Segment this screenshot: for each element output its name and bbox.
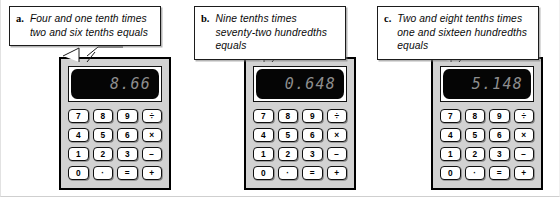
panel-c: c. Two and eight tenths times one and si…: [373, 0, 559, 197]
calculator-a[interactable]: 8.66 7 8 9 ÷ 4 5 6 × 1 2 3 − 0 · = +: [59, 57, 171, 190]
caption-text-a: Four and one tenth times two and six ten…: [30, 12, 153, 39]
display-value-b: 0.648: [285, 77, 336, 92]
keypad-b: 7 8 9 ÷ 4 5 6 × 1 2 3 − 0 · = +: [253, 109, 347, 180]
panel-b: b. Nine tenths times seventy-two hundred…: [188, 0, 374, 197]
caption-text-b: Nine tenths times seventy-two hundredths…: [215, 12, 338, 53]
callout-b: b. Nine tenths times seventy-two hundred…: [194, 6, 346, 60]
key-plus[interactable]: +: [514, 166, 535, 180]
key-7[interactable]: 7: [68, 109, 89, 123]
key-minus[interactable]: −: [514, 147, 535, 161]
key-decimal-point[interactable]: ·: [465, 166, 486, 180]
key-3[interactable]: 3: [302, 147, 323, 161]
key-0[interactable]: 0: [68, 166, 89, 180]
keypad-a: 7 8 9 ÷ 4 5 6 × 1 2 3 − 0 · = +: [68, 109, 162, 180]
key-5[interactable]: 5: [465, 128, 486, 142]
callout-c: c. Two and eight tenths times one and si…: [377, 6, 539, 60]
key-plus[interactable]: +: [142, 166, 163, 180]
key-8[interactable]: 8: [278, 109, 299, 123]
key-multiply[interactable]: ×: [142, 128, 163, 142]
key-3[interactable]: 3: [117, 147, 138, 161]
key-multiply[interactable]: ×: [327, 128, 348, 142]
key-0[interactable]: 0: [253, 166, 274, 180]
key-4[interactable]: 4: [253, 128, 274, 142]
key-equals[interactable]: =: [489, 166, 510, 180]
key-decimal-point[interactable]: ·: [93, 166, 114, 180]
key-5[interactable]: 5: [278, 128, 299, 142]
key-divide[interactable]: ÷: [142, 109, 163, 123]
display-value-c: 5.148: [472, 77, 523, 92]
key-divide[interactable]: ÷: [514, 109, 535, 123]
key-divide[interactable]: ÷: [327, 109, 348, 123]
key-decimal-point[interactable]: ·: [278, 166, 299, 180]
key-7[interactable]: 7: [253, 109, 274, 123]
key-3[interactable]: 3: [489, 147, 510, 161]
key-7[interactable]: 7: [440, 109, 461, 123]
display-bezel-a: 8.66: [68, 66, 162, 102]
key-2[interactable]: 2: [278, 147, 299, 161]
key-2[interactable]: 2: [93, 147, 114, 161]
panel-a: a. Four and one tenth times two and six …: [3, 0, 189, 197]
key-4[interactable]: 4: [440, 128, 461, 142]
key-9[interactable]: 9: [489, 109, 510, 123]
caption-text-c: Two and eight tenths times one and sixte…: [397, 12, 531, 53]
keypad-c: 7 8 9 ÷ 4 5 6 × 1 2 3 − 0 · = +: [440, 109, 534, 180]
key-4[interactable]: 4: [68, 128, 89, 142]
calculator-c[interactable]: 5.148 7 8 9 ÷ 4 5 6 × 1 2 3 − 0 · = +: [431, 57, 543, 190]
key-minus[interactable]: −: [142, 147, 163, 161]
key-9[interactable]: 9: [302, 109, 323, 123]
caption-letter-b: b.: [201, 12, 209, 26]
caption-letter-c: c.: [384, 12, 391, 26]
calculator-display-c: 5.148: [443, 69, 531, 99]
display-bezel-c: 5.148: [440, 66, 534, 102]
calculator-display-b: 0.648: [256, 69, 344, 99]
key-6[interactable]: 6: [489, 128, 510, 142]
key-plus[interactable]: +: [327, 166, 348, 180]
key-6[interactable]: 6: [117, 128, 138, 142]
key-equals[interactable]: =: [302, 166, 323, 180]
key-8[interactable]: 8: [465, 109, 486, 123]
callout-a: a. Four and one tenth times two and six …: [9, 6, 161, 46]
display-bezel-b: 0.648: [253, 66, 347, 102]
key-9[interactable]: 9: [117, 109, 138, 123]
key-multiply[interactable]: ×: [514, 128, 535, 142]
display-value-a: 8.66: [110, 77, 151, 92]
key-1[interactable]: 1: [253, 147, 274, 161]
key-2[interactable]: 2: [465, 147, 486, 161]
key-1[interactable]: 1: [440, 147, 461, 161]
key-6[interactable]: 6: [302, 128, 323, 142]
key-1[interactable]: 1: [68, 147, 89, 161]
key-minus[interactable]: −: [327, 147, 348, 161]
calculator-b[interactable]: 0.648 7 8 9 ÷ 4 5 6 × 1 2 3 − 0 · = +: [244, 57, 356, 190]
calculator-worksheet-figure: a. Four and one tenth times two and six …: [0, 0, 560, 197]
key-equals[interactable]: =: [117, 166, 138, 180]
key-5[interactable]: 5: [93, 128, 114, 142]
calculator-display-a: 8.66: [71, 69, 159, 99]
key-0[interactable]: 0: [440, 166, 461, 180]
caption-letter-a: a.: [16, 12, 24, 26]
key-8[interactable]: 8: [93, 109, 114, 123]
